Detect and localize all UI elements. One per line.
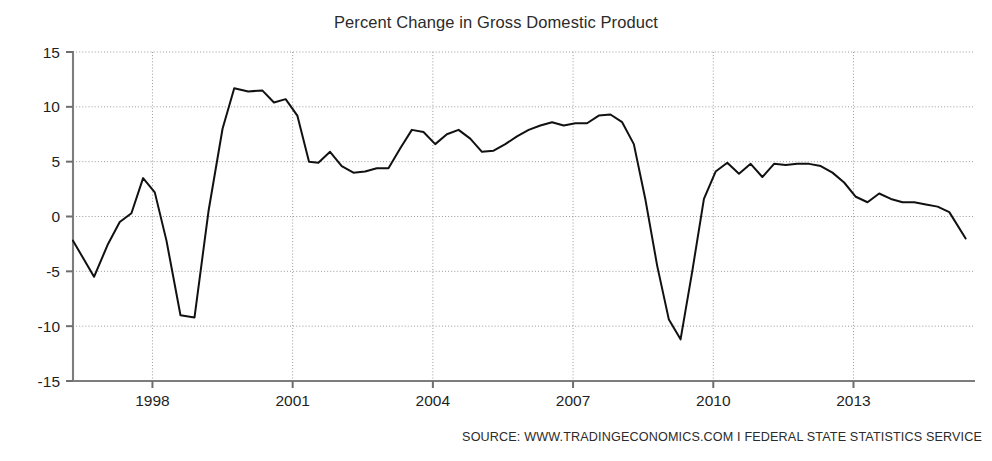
x-tick-label: 2010 xyxy=(696,392,731,409)
x-tick-label: 2007 xyxy=(556,392,590,409)
line-chart-plot: 151050-5-10-15 199820012004200720102013 xyxy=(0,0,992,461)
x-axis-tick-labels: 199820012004200720102013 xyxy=(135,392,871,409)
source-caption: SOURCE: WWW.TRADINGECONOMICS.COM I FEDER… xyxy=(462,430,982,444)
series-line xyxy=(73,88,966,339)
vertical-gridlines xyxy=(152,52,853,381)
y-tick-label: -15 xyxy=(38,373,60,390)
y-tick-label: -10 xyxy=(38,318,61,335)
x-tick-label: 2004 xyxy=(416,392,451,409)
y-tick-label: -5 xyxy=(46,263,60,280)
data-series-gdp xyxy=(73,88,966,339)
x-tick-label: 2001 xyxy=(275,392,309,409)
y-tick-label: 10 xyxy=(43,98,61,115)
y-tick-label: 15 xyxy=(43,44,60,61)
x-tick-label: 2013 xyxy=(836,392,870,409)
axis-ticks xyxy=(66,52,853,388)
chart-container: Percent Change in Gross Domestic Product… xyxy=(0,0,992,461)
y-axis-tick-labels: 151050-5-10-15 xyxy=(38,44,61,390)
y-tick-label: 5 xyxy=(51,153,60,170)
y-tick-label: 0 xyxy=(51,208,60,225)
x-tick-label: 1998 xyxy=(135,392,169,409)
